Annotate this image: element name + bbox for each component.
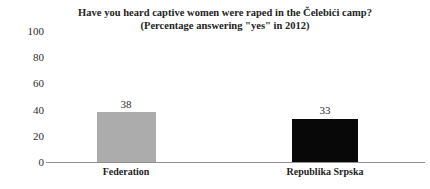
bar-chart-figure: Have you heard captive women were raped … <box>0 0 430 189</box>
bar-republika-srpska <box>292 119 358 162</box>
plot-area: 100 80 60 40 20 0 38 33 Federation Repub… <box>0 0 430 189</box>
bar-federation <box>97 112 156 162</box>
bar-value-label: 33 <box>320 104 331 116</box>
y-axis-tick-labels: 100 80 60 40 20 0 <box>0 0 44 189</box>
y-tick-label: 60 <box>4 77 44 89</box>
y-tick-label: 80 <box>4 51 44 63</box>
y-tick-label: 100 <box>4 25 44 37</box>
category-label-federation: Federation <box>103 166 150 177</box>
y-tick-label: 40 <box>4 104 44 116</box>
y-tick-label: 0 <box>4 156 44 168</box>
bar-value-label: 38 <box>121 98 132 110</box>
x-axis-baseline <box>46 162 425 163</box>
category-label-republika-srpska: Republika Srpska <box>287 166 364 177</box>
y-tick-label: 20 <box>4 130 44 142</box>
